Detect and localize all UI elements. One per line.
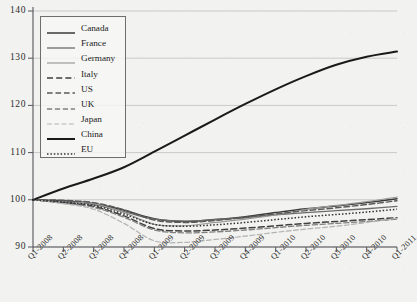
legend-item-us[interactable]: US [41,82,125,97]
legend-line-swatch-icon [46,69,76,79]
legend-item-label: UK [81,100,94,109]
legend-line-swatch-icon [46,145,76,155]
legend-item-china[interactable]: China [41,127,125,142]
legend-item-label: Germany [81,54,115,63]
legend-line-swatch-icon [46,130,76,140]
legend-item-germany[interactable]: Germany [41,51,125,66]
legend-item-uk[interactable]: UK [41,97,125,112]
legend-line-swatch-icon [46,24,76,34]
chart-legend: CanadaFranceGermanyItalyUSUKJapanChinaEU [40,16,126,158]
y-axis-tick-label: 140 [0,5,26,15]
legend-line-swatch-icon [46,39,76,49]
y-axis-tick-label: 130 [0,52,26,62]
legend-item-eu[interactable]: EU [41,143,125,158]
legend-item-label: China [81,130,103,139]
legend-item-france[interactable]: France [41,36,125,51]
legend-item-label: France [81,39,106,48]
legend-line-swatch-icon [46,84,76,94]
legend-item-canada[interactable]: Canada [41,21,125,36]
legend-item-label: Japan [81,115,102,124]
legend-item-japan[interactable]: Japan [41,112,125,127]
legend-item-label: Canada [81,24,109,33]
legend-line-swatch-icon [46,115,76,125]
legend-item-label: EU [81,145,93,154]
y-axis-tick-label: 90 [0,241,26,251]
y-axis-tick-label: 120 [0,99,26,109]
legend-item-italy[interactable]: Italy [41,67,125,82]
y-axis-ticks [28,11,33,247]
chart-root: 14013012011010090 Q1-2008Q2-2008Q3-2008Q… [0,0,417,302]
legend-item-label: US [81,85,93,94]
legend-line-swatch-icon [46,100,76,110]
legend-line-swatch-icon [46,54,76,64]
legend-item-label: Italy [81,70,98,79]
y-axis-tick-label: 110 [0,147,26,157]
y-axis-tick-label: 100 [0,194,26,204]
